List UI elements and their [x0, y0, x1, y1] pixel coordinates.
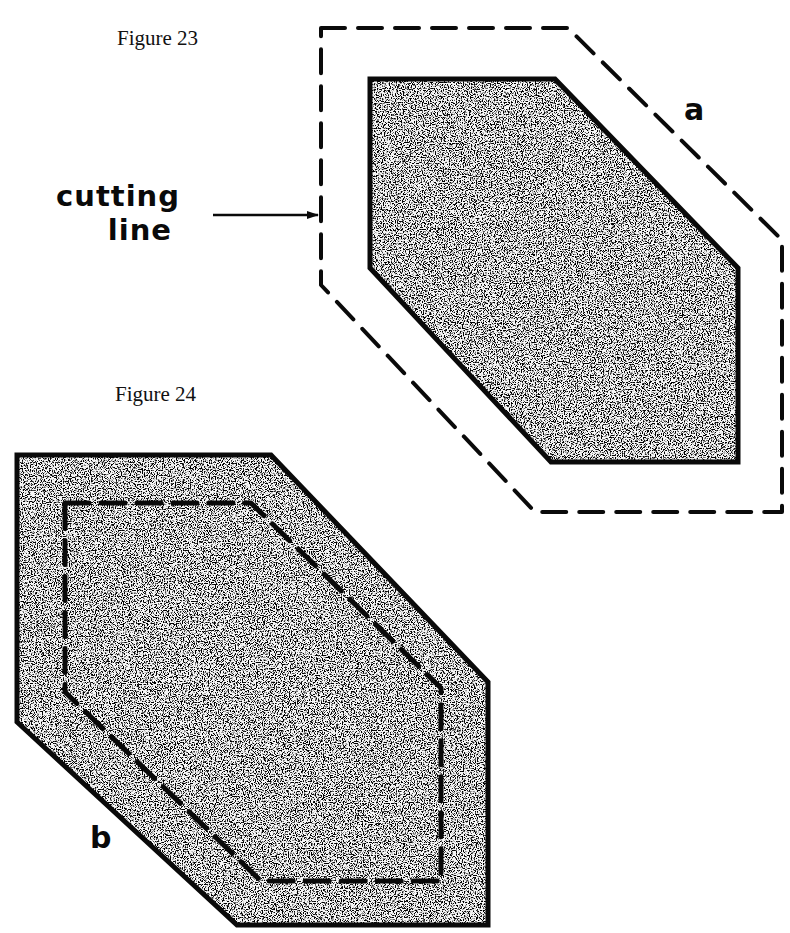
diagram-canvas	[0, 0, 790, 933]
part-label-a: a	[684, 95, 704, 125]
fabric-piece-b	[10, 448, 495, 933]
figure-23	[321, 28, 782, 512]
figure-23-caption: Figure 23	[117, 28, 198, 49]
part-label-b: b	[90, 823, 111, 853]
cutting-line-label-line1: cutting	[20, 182, 180, 211]
cutting-line-label: cutting line	[20, 182, 180, 245]
figure-24	[10, 448, 495, 933]
cutting-line-label-line2: line	[20, 216, 180, 245]
fabric-piece-a	[360, 70, 750, 470]
figure-24-caption: Figure 24	[115, 384, 196, 405]
